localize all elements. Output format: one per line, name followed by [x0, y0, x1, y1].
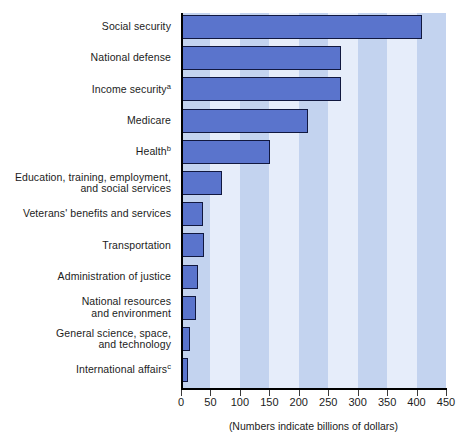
bar [181, 109, 308, 133]
bar [181, 15, 422, 39]
plot-area [181, 13, 446, 388]
category-label: Social security [0, 21, 171, 33]
x-tick-label: 400 [407, 396, 425, 408]
x-tick-label: 0 [178, 396, 184, 408]
category-label: Medicare [0, 115, 171, 127]
x-tick-label: 100 [231, 396, 249, 408]
x-tick-label: 250 [319, 396, 337, 408]
bar [181, 46, 341, 70]
category-axis-labels: Social securityNational defenseIncome se… [0, 13, 176, 388]
x-tick-label: 450 [437, 396, 455, 408]
category-label: Administration of justice [0, 271, 171, 283]
footnote-marker: a [167, 81, 171, 90]
bar [181, 233, 204, 257]
y-axis-line [181, 13, 183, 389]
x-tick-label: 300 [348, 396, 366, 408]
x-tick-label: 200 [290, 396, 308, 408]
x-axis-tick-labels: 050100150200250300350400450 [181, 396, 446, 412]
category-label: Transportation [0, 240, 171, 252]
category-label: Income securitya [0, 84, 171, 96]
category-label: Education, training, employment,and soci… [0, 172, 171, 195]
category-label: Veterans' benefits and services [0, 208, 171, 220]
category-label: National resourcesand environment [0, 296, 171, 319]
footnote-marker: c [167, 362, 171, 371]
bar [181, 265, 198, 289]
bar [181, 202, 203, 226]
bar [181, 140, 270, 164]
x-tick-label: 50 [204, 396, 216, 408]
category-label: National defense [0, 52, 171, 64]
x-tick-label: 350 [378, 396, 396, 408]
category-label: General science, space,and technology [0, 328, 171, 351]
footnote-marker: b [167, 144, 171, 153]
bar [181, 77, 341, 101]
bar-chart: Social securityNational defenseIncome se… [0, 0, 466, 442]
category-label: Healthb [0, 146, 171, 158]
bar [181, 296, 196, 320]
category-label: International affairsc [0, 364, 171, 376]
bar [181, 171, 222, 195]
bars-layer [181, 13, 446, 388]
x-tick-label: 150 [260, 396, 278, 408]
chart-caption: (Numbers indicate billions of dollars) [181, 420, 446, 432]
